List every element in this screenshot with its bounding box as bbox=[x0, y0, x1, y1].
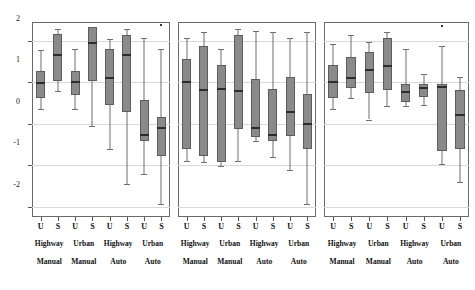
whisker-lower bbox=[459, 149, 460, 182]
box-plot[interactable] bbox=[346, 22, 355, 217]
box-iqr bbox=[365, 52, 374, 93]
box-plot[interactable] bbox=[303, 22, 312, 217]
cap-lower bbox=[253, 141, 259, 142]
box-plot[interactable] bbox=[401, 22, 410, 217]
box-iqr bbox=[53, 34, 62, 80]
x-axis-tick bbox=[290, 217, 291, 221]
box-plot[interactable] bbox=[286, 22, 295, 217]
x-axis-tick bbox=[333, 217, 334, 221]
median-line bbox=[346, 77, 355, 79]
x-label-level3: Auto bbox=[275, 257, 323, 266]
whisker-lower bbox=[272, 141, 273, 156]
cap-lower bbox=[38, 109, 44, 110]
whisker-lower bbox=[333, 98, 334, 109]
box-iqr bbox=[217, 65, 226, 162]
cap-upper bbox=[158, 49, 164, 50]
x-label-level2: Urban bbox=[275, 239, 323, 248]
whisker-upper bbox=[405, 49, 406, 84]
cap-lower bbox=[55, 91, 61, 92]
cap-upper bbox=[270, 32, 276, 33]
x-axis-labels: USUSUSUSHighwayManualUrbanManualHighwayA… bbox=[324, 222, 469, 288]
box-iqr bbox=[122, 35, 131, 112]
cap-lower bbox=[384, 106, 390, 107]
box-iqr bbox=[36, 71, 45, 98]
cap-lower bbox=[457, 182, 463, 183]
box-plot[interactable] bbox=[251, 22, 260, 217]
box-plot[interactable] bbox=[53, 22, 62, 217]
whisker-lower bbox=[161, 156, 162, 204]
x-label-level2: Urban bbox=[129, 239, 177, 248]
whisker-lower bbox=[351, 88, 352, 98]
box-plot[interactable] bbox=[217, 22, 226, 217]
box-plot[interactable] bbox=[268, 22, 277, 217]
x-label-level1: U bbox=[396, 222, 416, 231]
plot-area bbox=[32, 22, 170, 217]
x-label-level2: Urban bbox=[427, 239, 475, 248]
box-plot[interactable] bbox=[234, 22, 243, 217]
box-plot[interactable] bbox=[157, 22, 166, 217]
box-plot[interactable] bbox=[88, 22, 97, 217]
box-plot[interactable] bbox=[437, 22, 446, 217]
cap-upper bbox=[384, 32, 390, 33]
median-line bbox=[217, 88, 226, 90]
whisker-lower bbox=[57, 81, 58, 91]
x-axis-tick bbox=[273, 217, 274, 221]
x-axis-labels: USUSUSUSHighwayManualUrbanManualHighwayA… bbox=[32, 222, 170, 288]
cap-lower bbox=[287, 170, 293, 171]
whisker-upper bbox=[144, 38, 145, 100]
x-axis-tick bbox=[144, 217, 145, 221]
cap-upper bbox=[124, 29, 130, 30]
x-axis-tick bbox=[307, 217, 308, 221]
x-axis-tick bbox=[406, 217, 407, 221]
cap-lower bbox=[330, 109, 336, 110]
y-axis-label: 1 bbox=[2, 56, 20, 64]
box-plot[interactable] bbox=[182, 22, 191, 217]
box-plot[interactable] bbox=[199, 22, 208, 217]
cap-upper bbox=[287, 38, 293, 39]
box-plot[interactable] bbox=[383, 22, 392, 217]
x-axis-tick bbox=[424, 217, 425, 221]
whisker-upper bbox=[441, 46, 442, 85]
cap-upper bbox=[403, 49, 409, 50]
whisker-lower bbox=[423, 97, 424, 105]
whisker-lower bbox=[109, 105, 110, 149]
median-line bbox=[88, 42, 97, 44]
panel-3 bbox=[324, 22, 469, 217]
box-plot[interactable] bbox=[328, 22, 337, 217]
whisker-lower bbox=[144, 141, 145, 173]
cap-upper bbox=[304, 32, 310, 33]
x-label-level1: U bbox=[359, 222, 379, 231]
x-label-level1: U bbox=[323, 222, 343, 231]
whisker-lower bbox=[307, 149, 308, 203]
box-plot[interactable] bbox=[122, 22, 131, 217]
whisker-upper bbox=[255, 31, 256, 79]
x-axis-ticks bbox=[324, 217, 469, 221]
box-iqr bbox=[419, 84, 428, 97]
x-label-level3: Auto bbox=[427, 257, 475, 266]
median-line bbox=[199, 89, 208, 91]
x-axis-tick bbox=[238, 217, 239, 221]
x-label-level1: S bbox=[341, 222, 361, 231]
x-label-level1: U bbox=[432, 222, 452, 231]
box-plot[interactable] bbox=[419, 22, 428, 217]
box-plot[interactable] bbox=[455, 22, 464, 217]
whisker-lower bbox=[126, 112, 127, 184]
x-axis-tick bbox=[187, 217, 188, 221]
x-axis-tick bbox=[221, 217, 222, 221]
whisker-upper bbox=[186, 38, 187, 60]
box-plot[interactable] bbox=[105, 22, 114, 217]
box-plot[interactable] bbox=[36, 22, 45, 217]
x-axis-tick bbox=[442, 217, 443, 221]
x-label-level1: S bbox=[414, 222, 434, 231]
whisker-upper bbox=[40, 50, 41, 70]
box-plot[interactable] bbox=[71, 22, 80, 217]
median-line bbox=[401, 91, 410, 93]
outlier-point bbox=[441, 25, 443, 27]
y-axis-label: -1 bbox=[2, 139, 20, 147]
cap-lower bbox=[107, 149, 113, 150]
box-plot[interactable] bbox=[140, 22, 149, 217]
whisker-upper bbox=[290, 38, 291, 77]
cap-lower bbox=[89, 126, 95, 127]
cap-lower bbox=[235, 161, 241, 162]
box-plot[interactable] bbox=[365, 22, 374, 217]
